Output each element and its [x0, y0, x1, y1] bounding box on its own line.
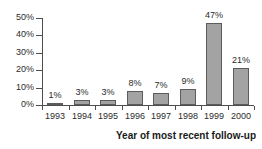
- bar-value-label: 21%: [224, 56, 258, 65]
- x-axis-tick: [175, 106, 176, 110]
- bar: [206, 23, 222, 105]
- x-axis-category-label: 1995: [93, 111, 123, 121]
- y-axis-tick-label: 0%: [21, 100, 34, 109]
- y-axis-tick-label: 40%: [16, 30, 34, 39]
- x-axis-category-label: 1993: [40, 111, 70, 121]
- y-axis-tick-label: 20%: [16, 65, 34, 74]
- bar-value-label: 47%: [197, 11, 231, 20]
- bar-chart: 0%10%20%30%40%50% 1993199419951996199719…: [0, 0, 262, 149]
- y-axis-tick-label: 30%: [16, 48, 34, 57]
- x-axis-tick: [42, 106, 43, 110]
- bar: [74, 100, 90, 105]
- x-axis-tick: [148, 106, 149, 110]
- x-axis-category-label: 1999: [199, 111, 229, 121]
- bar: [180, 89, 196, 105]
- x-axis-tick: [95, 106, 96, 110]
- x-axis-tick: [69, 106, 70, 110]
- bar: [127, 91, 143, 105]
- bar: [47, 103, 63, 105]
- bar: [233, 68, 249, 105]
- x-axis-category-label: 1997: [146, 111, 176, 121]
- bar-value-label: 3%: [91, 88, 125, 97]
- x-axis-category-label: 2000: [226, 111, 256, 121]
- x-axis-tick: [122, 106, 123, 110]
- bar: [100, 100, 116, 105]
- x-axis-tick: [254, 106, 255, 110]
- bar-value-label: 9%: [171, 77, 205, 86]
- x-axis-tick: [228, 106, 229, 110]
- y-axis-tick-label: 50%: [16, 13, 34, 22]
- x-axis-tick: [201, 106, 202, 110]
- bar: [153, 93, 169, 105]
- x-axis-title: Year of most recent follow-up: [116, 130, 256, 141]
- y-axis-tick-label: 10%: [16, 83, 34, 92]
